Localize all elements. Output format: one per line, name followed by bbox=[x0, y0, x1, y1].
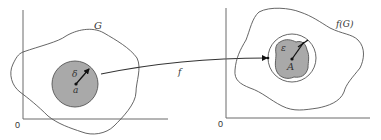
delta-label: δ bbox=[72, 69, 77, 79]
right-origin-label: 0 bbox=[218, 119, 223, 129]
epsilon-label: ε bbox=[281, 43, 286, 53]
point-A-label: A bbox=[286, 61, 294, 72]
left-panel: 0 G δ a bbox=[11, 10, 168, 134]
region-g-label: G bbox=[94, 20, 102, 31]
continuity-diagram: 0 G δ a f 0 f(G) ε A bbox=[0, 0, 381, 140]
mapping-arrow bbox=[101, 58, 267, 74]
mapping-f-label: f bbox=[177, 67, 183, 77]
right-panel: 0 f(G) ε A bbox=[218, 8, 370, 129]
region-fg-label: f(G) bbox=[335, 19, 354, 29]
mapping-f: f bbox=[101, 58, 267, 77]
point-a-label: a bbox=[73, 85, 78, 95]
left-origin-label: 0 bbox=[15, 120, 20, 130]
mapping-target-dot bbox=[267, 57, 270, 60]
